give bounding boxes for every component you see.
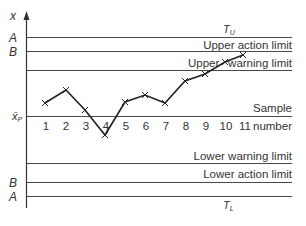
lower-warning-label: Lower warning limit: [194, 150, 293, 162]
marker-x-icon: [102, 132, 108, 138]
upper-b-label: B: [9, 45, 17, 59]
lower-a-label: A: [8, 190, 17, 204]
marker-x-icon: [82, 107, 88, 113]
tick-7: 7: [163, 120, 169, 132]
x-tick-labels: 1 2 3 4 5 6 7 8 9 10 11: [43, 120, 251, 132]
upper-warning-label-b: warning limit: [227, 57, 293, 69]
upper-tolerance-label: TU: [223, 23, 236, 36]
control-chart: x A B x̄P B A TU TL Upper action limit U…: [0, 0, 306, 226]
tick-9: 9: [203, 120, 209, 132]
tick-5: 5: [123, 120, 129, 132]
number-label: number: [253, 120, 292, 132]
tick-2: 2: [63, 120, 69, 132]
tick-10: 10: [220, 120, 233, 132]
marker-x-icon: [63, 87, 69, 93]
tick-6: 6: [143, 120, 149, 132]
upper-warning-label-a: Upper: [188, 57, 219, 69]
tick-11: 11: [239, 120, 251, 132]
y-axis-arrow-icon: [24, 11, 30, 20]
tick-3: 3: [83, 120, 89, 132]
tick-1: 1: [43, 120, 49, 132]
tick-8: 8: [183, 120, 189, 132]
sample-label: Sample: [253, 102, 292, 114]
center-label: x̄P: [11, 110, 23, 123]
upper-action-label: Upper action limit: [203, 39, 293, 51]
marker-x-icon: [42, 100, 48, 106]
upper-a-label: A: [8, 31, 17, 45]
lower-action-label: Lower action limit: [203, 168, 293, 180]
lower-b-label: B: [9, 176, 17, 190]
y-axis-label: x: [9, 9, 17, 23]
lower-tolerance-label: TL: [223, 199, 234, 212]
